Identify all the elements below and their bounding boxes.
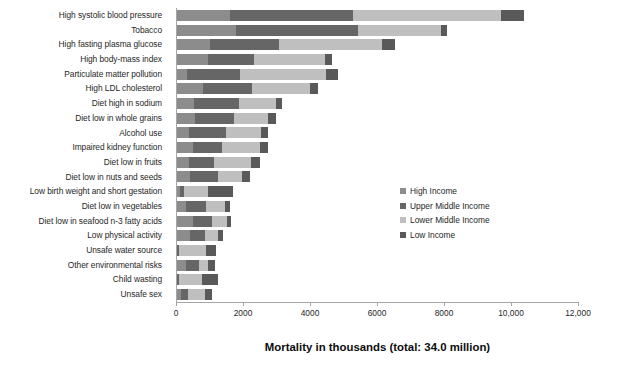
category-label: High fasting plasma glucose — [0, 37, 168, 52]
bar-segment — [176, 83, 203, 94]
category-label: High LDL cholesterol — [0, 81, 168, 96]
legend-swatch-icon — [400, 232, 406, 238]
bar-segment — [176, 127, 189, 138]
bar-segment — [252, 83, 309, 94]
x-axis-tick — [511, 302, 512, 306]
bar-segment — [179, 274, 202, 285]
category-label: Impaired kidney function — [0, 140, 168, 155]
x-axis-tick-label: 8000 — [435, 308, 454, 318]
bar-segment — [176, 201, 186, 212]
bar-segment — [226, 127, 262, 138]
bar-segment — [251, 157, 259, 168]
bar-row — [176, 81, 578, 96]
category-label: Low birth weight and short gestation — [0, 184, 168, 199]
bar-segment — [186, 201, 206, 212]
stacked-bar — [176, 201, 230, 212]
bar-segment — [276, 98, 281, 109]
x-axis-tick — [310, 302, 311, 306]
bar-segment — [203, 83, 253, 94]
stacked-bar — [176, 289, 212, 300]
bar-segment — [176, 171, 190, 182]
category-label: High systolic blood pressure — [0, 8, 168, 23]
bar-segment — [195, 113, 235, 124]
bar-segment — [382, 39, 395, 50]
bar-segment — [212, 216, 227, 227]
bar-segment — [176, 260, 186, 271]
x-axis-tick-label: 10,000 — [498, 308, 524, 318]
bar-row — [176, 272, 578, 287]
legend-item: High Income — [400, 184, 490, 199]
bar-row — [176, 96, 578, 111]
stacked-bar — [176, 98, 282, 109]
category-label: Tobacco — [0, 23, 168, 38]
bar-segment — [190, 171, 218, 182]
bar-segment — [190, 230, 205, 241]
x-axis-tick — [444, 302, 445, 306]
bar-segment — [254, 54, 325, 65]
bar-segment — [176, 10, 230, 21]
bar-segment — [189, 127, 225, 138]
bar-segment — [176, 98, 194, 109]
bar-segment — [176, 157, 189, 168]
bar-segment — [208, 260, 214, 271]
bar-row — [176, 111, 578, 126]
x-axis-tick — [578, 302, 579, 306]
bar-row — [176, 67, 578, 82]
stacked-bar — [176, 54, 332, 65]
stacked-bar — [176, 113, 276, 124]
bar-segment — [186, 260, 199, 271]
bar-row — [176, 199, 578, 214]
bar-row — [176, 228, 578, 243]
legend-label: Low Income — [410, 230, 455, 240]
bar-segment — [181, 289, 188, 300]
bar-row — [176, 23, 578, 38]
bar-row — [176, 8, 578, 23]
category-label: Diet low in seafood n-3 fatty acids — [0, 214, 168, 229]
stacked-bar — [176, 216, 231, 227]
category-label: Low physical activity — [0, 228, 168, 243]
bar-row — [176, 287, 578, 302]
bar-row — [176, 258, 578, 273]
x-axis-tick — [377, 302, 378, 306]
bar-segment — [358, 25, 441, 36]
x-axis-tick-label: 2000 — [234, 308, 253, 318]
bar-segment — [240, 69, 326, 80]
stacked-bar — [176, 245, 216, 256]
legend-item: Low Income — [400, 228, 490, 243]
bar-segment — [176, 230, 190, 241]
bar-segment — [176, 142, 193, 153]
stacked-bar — [176, 260, 215, 271]
x-axis-title: Mortality in thousands (total: 34.0 mill… — [176, 341, 579, 353]
stacked-bar — [176, 186, 233, 197]
bar-row — [176, 184, 578, 199]
bar-segment — [208, 186, 233, 197]
legend-swatch-icon — [400, 217, 406, 223]
x-axis-tick-label: 12,000 — [565, 308, 591, 318]
bar-segment — [326, 69, 338, 80]
bar-segment — [234, 113, 268, 124]
y-axis-line — [176, 8, 177, 302]
bar-segment — [218, 230, 223, 241]
stacked-bar — [176, 25, 447, 36]
bar-segment — [205, 230, 218, 241]
category-label: Particulate matter pollution — [0, 67, 168, 82]
bar-segment — [176, 113, 195, 124]
legend-item: Lower Middle Income — [400, 213, 490, 228]
bar-segment — [210, 39, 279, 50]
bar-segment — [268, 113, 276, 124]
x-axis-tick-label: 4000 — [301, 308, 320, 318]
bar-segment — [501, 10, 524, 21]
x-axis-tick — [176, 302, 177, 306]
bar-segment — [184, 186, 209, 197]
bar-segment — [261, 127, 268, 138]
legend-label: Lower Middle Income — [410, 215, 490, 225]
bar-segment — [176, 25, 236, 36]
category-label: Alcohol use — [0, 126, 168, 141]
bar-segment — [206, 245, 216, 256]
bar-row — [176, 155, 578, 170]
category-label: Diet low in fruits — [0, 155, 168, 170]
x-axis-tick-label: 6000 — [368, 308, 387, 318]
stacked-bar — [176, 39, 395, 50]
bar-segment — [325, 54, 331, 65]
bar-segment — [193, 216, 212, 227]
